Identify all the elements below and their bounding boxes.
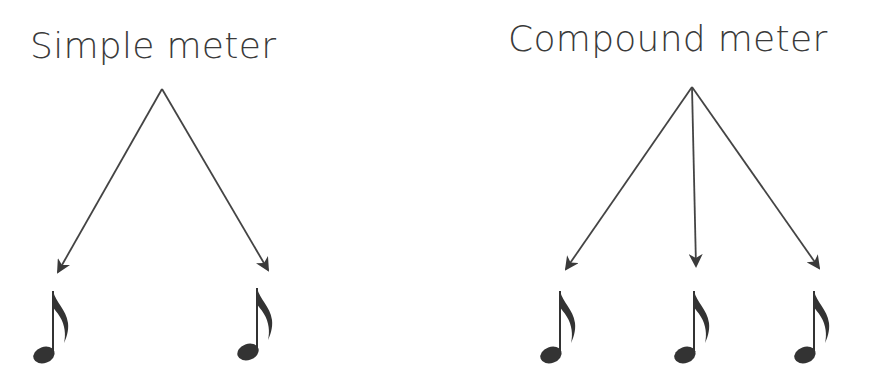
arrow-icon (162, 89, 268, 270)
eighth-note-icon (792, 291, 829, 366)
simple-arrows (58, 89, 268, 272)
compound-notes (538, 291, 829, 366)
arrow-icon (692, 87, 696, 266)
simple-notes (31, 288, 272, 366)
meter-diagram (0, 0, 892, 383)
arrow-icon (566, 87, 692, 269)
arrow-icon (58, 89, 162, 272)
eighth-note-icon (31, 291, 68, 366)
eighth-note-icon (672, 291, 709, 366)
eighth-note-icon (538, 291, 575, 366)
eighth-note-icon (235, 288, 272, 363)
compound-arrows (566, 87, 819, 269)
arrow-icon (692, 87, 819, 268)
